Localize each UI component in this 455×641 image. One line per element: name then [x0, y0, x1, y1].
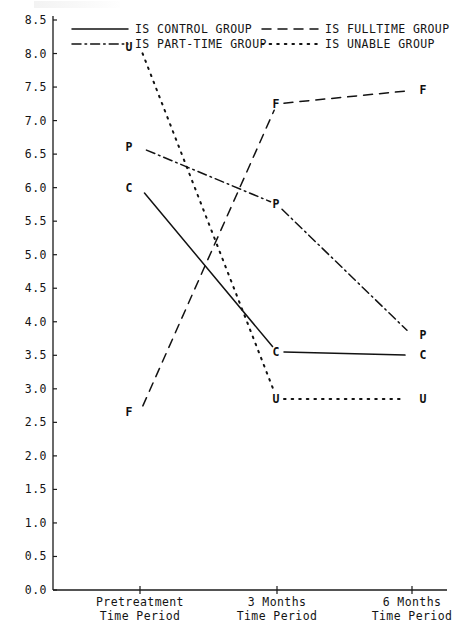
- y-axis-tick-label: 8.5: [25, 13, 47, 27]
- legend-label: IS PART-TIME GROUP: [135, 37, 267, 51]
- y-axis-tick-label: 7.0: [25, 114, 47, 128]
- y-axis-tick-label: 4.5: [25, 281, 47, 295]
- series-line-segment: [146, 150, 270, 202]
- legend-label: IS UNABLE GROUP: [325, 37, 435, 51]
- y-axis-tick-label: 2.5: [25, 415, 47, 429]
- series-line-segment: [143, 110, 274, 406]
- data-point-marker: F: [420, 83, 427, 97]
- data-point-marker: C: [126, 181, 133, 195]
- data-point-marker: P: [126, 140, 133, 154]
- series-line-segment: [282, 209, 407, 330]
- x-axis-tick-label: Pretreatment: [96, 595, 184, 609]
- y-axis-tick-label: 0.5: [25, 549, 47, 563]
- series-line-segment: [144, 193, 272, 347]
- x-axis-tick-label: 3 Months: [248, 595, 307, 609]
- data-point-marker: P: [420, 328, 427, 342]
- y-axis-tick-label: 0.0: [25, 583, 47, 597]
- line-chart: 0.00.51.01.52.02.53.03.54.04.55.05.56.06…: [0, 0, 455, 641]
- data-point-marker: U: [126, 40, 133, 54]
- x-axis-tick-label: Time Period: [237, 609, 318, 623]
- y-axis-tick-label: 3.0: [25, 382, 47, 396]
- x-axis-tick-label: Time Period: [372, 609, 453, 623]
- y-axis-tick-label: 5.5: [25, 214, 47, 228]
- legend-label: IS FULLTIME GROUP: [325, 22, 450, 36]
- data-point-marker: P: [273, 197, 280, 211]
- data-point-marker: C: [273, 345, 280, 359]
- y-axis-tick-label: 8.0: [25, 47, 47, 61]
- series-line-segment: [284, 352, 405, 355]
- data-point-marker: F: [126, 405, 133, 419]
- data-point-marker: U: [420, 392, 427, 406]
- data-point-marker: U: [273, 392, 280, 406]
- series-line-segment: [284, 91, 405, 103]
- y-axis-tick-label: 3.5: [25, 348, 47, 362]
- y-axis-tick-label: 1.0: [25, 516, 47, 530]
- y-axis-tick-label: 2.0: [25, 449, 47, 463]
- y-axis-tick-label: 6.0: [25, 181, 47, 195]
- y-axis-tick-label: 4.0: [25, 315, 47, 329]
- x-axis-tick-label: 6 Months: [383, 595, 442, 609]
- y-axis-tick-label: 7.5: [25, 80, 47, 94]
- x-axis-tick-label: Time Period: [100, 609, 181, 623]
- data-point-marker: F: [273, 97, 280, 111]
- series-line-segment: [143, 53, 275, 392]
- data-point-marker: C: [420, 348, 427, 362]
- chart-plot-area: 0.00.51.01.52.02.53.03.54.04.55.05.56.06…: [0, 0, 455, 641]
- y-axis-tick-label: 1.5: [25, 482, 47, 496]
- legend-label: IS CONTROL GROUP: [135, 22, 252, 36]
- y-axis-tick-label: 6.5: [25, 147, 47, 161]
- y-axis-tick-label: 5.0: [25, 248, 47, 262]
